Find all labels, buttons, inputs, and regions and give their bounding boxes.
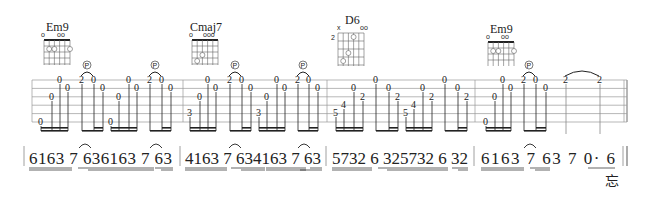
svg-text:0: 0: [213, 82, 218, 93]
chord-diagram-em9-1: Em9 ooo: [41, 20, 73, 65]
svg-text:0: 0: [91, 74, 96, 85]
pulloff-labels: P P P P P: [83, 61, 533, 69]
svg-text:3: 3: [187, 107, 192, 118]
chord-diagram-cmaj7: Cmaj7 oooo: [189, 20, 222, 65]
svg-text:0: 0: [508, 82, 513, 93]
svg-text:0: 0: [134, 82, 139, 93]
jianpu-measure: 6163 7 636163 7 63: [29, 149, 172, 168]
tab-measure-2: 3000 200 3000 200: [187, 74, 320, 118]
tab-measure-4: 0000 200 22: [483, 74, 602, 127]
tablature-sheet: Em9 ooo Cmaj7 oooo D6 xoo 2 Em9: [0, 0, 654, 200]
svg-text:P: P: [153, 62, 158, 69]
svg-text:4: 4: [341, 99, 346, 110]
tab-measure-3: 5402 002 5402 002: [333, 74, 469, 118]
svg-text:0: 0: [248, 82, 253, 93]
svg-text:2: 2: [360, 91, 365, 102]
chord-diagram-d6: D6 xoo 2: [331, 13, 368, 66]
svg-text:0: 0: [57, 74, 62, 85]
jianpu-measure: 5732 6 325732 6 32: [332, 149, 468, 168]
svg-text:2: 2: [464, 91, 469, 102]
svg-text:0: 0: [386, 82, 391, 93]
svg-text:0: 0: [351, 82, 356, 93]
svg-text:P: P: [233, 62, 238, 69]
svg-text:0: 0: [38, 116, 43, 127]
jianpu-measure: 4163 7 634163 7 63: [185, 149, 321, 168]
svg-text:0: 0: [483, 116, 488, 127]
svg-text:3: 3: [256, 107, 261, 118]
svg-text:5: 5: [333, 107, 338, 118]
svg-text:ooo: ooo: [203, 31, 215, 38]
tab-measure-1: 0000 200 0000 200: [38, 74, 173, 127]
svg-text:0: 0: [108, 116, 113, 127]
svg-text:2: 2: [429, 91, 434, 102]
svg-text:o: o: [486, 33, 490, 40]
svg-text:oo: oo: [360, 24, 368, 31]
svg-text:P: P: [85, 62, 90, 69]
svg-text:0: 0: [282, 82, 287, 93]
svg-text:0: 0: [274, 74, 279, 85]
svg-text:0: 0: [373, 74, 378, 85]
lyric: 忘: [605, 174, 619, 189]
svg-text:0: 0: [455, 82, 460, 93]
svg-text:5: 5: [403, 107, 408, 118]
svg-text:0: 0: [65, 82, 70, 93]
svg-text:0: 0: [492, 91, 497, 102]
svg-text:0: 0: [205, 74, 210, 85]
jianpu-line: 6163 7 636163 7 63 4163 7 634163 7 63 57…: [24, 144, 627, 189]
svg-text:0: 0: [159, 74, 164, 85]
jianpu-measure: 6163 7 63 7 0· 6: [481, 149, 615, 168]
svg-text:0: 0: [49, 91, 54, 102]
svg-text:0: 0: [100, 82, 105, 93]
svg-text:4: 4: [411, 99, 416, 110]
svg-text:P: P: [527, 62, 532, 69]
svg-text:o: o: [41, 31, 45, 38]
stems-beams: [41, 84, 600, 134]
svg-text:0: 0: [239, 74, 244, 85]
svg-text:0: 0: [420, 82, 425, 93]
svg-text:0: 0: [168, 82, 173, 93]
svg-text:0: 0: [315, 82, 320, 93]
svg-text:oo: oo: [57, 31, 65, 38]
svg-text:0: 0: [264, 91, 269, 102]
svg-text:2: 2: [331, 34, 335, 41]
chord-name: D6: [345, 13, 360, 27]
svg-text:P: P: [301, 62, 306, 69]
svg-text:0: 0: [197, 91, 202, 102]
svg-text:0: 0: [116, 91, 121, 102]
chord-diagram-em9-2: Em9 ooo: [486, 22, 517, 66]
tab-staff: [32, 80, 627, 122]
svg-text:o: o: [189, 31, 193, 38]
svg-text:oo: oo: [501, 33, 509, 40]
svg-text:0: 0: [533, 74, 538, 85]
svg-text:0: 0: [500, 74, 505, 85]
svg-text:0: 0: [543, 82, 548, 93]
svg-text:x: x: [337, 24, 341, 31]
svg-text:0: 0: [442, 74, 447, 85]
svg-text:0: 0: [126, 74, 131, 85]
svg-text:2: 2: [395, 91, 400, 102]
